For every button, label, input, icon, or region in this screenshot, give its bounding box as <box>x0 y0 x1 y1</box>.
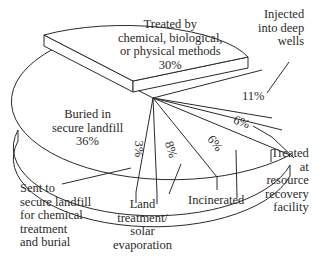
label-sent-pct: 3% <box>132 140 146 157</box>
label-buried: Buried in secure landfill 36% <box>52 108 123 149</box>
label-incinerated: Incinerated <box>188 194 244 208</box>
label-chemical: Treated by chemical, biological, or phys… <box>118 18 222 72</box>
label-deep-wells: Injected into deep wells <box>258 8 304 49</box>
label-recovery: Treated at resource recovery facility <box>265 147 309 215</box>
leader-wells <box>267 62 289 93</box>
label-sent: Sent to secure landfill for chemical tre… <box>20 182 91 250</box>
label-deep-wells-pct: 11% <box>242 90 264 104</box>
leader-recovery <box>253 126 272 137</box>
label-land: Land treatment/ solar evaporation <box>113 198 172 252</box>
